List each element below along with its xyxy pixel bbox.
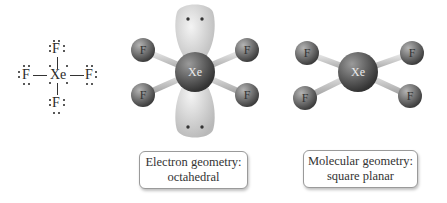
- lewis-atom-left-f: F: [22, 68, 30, 82]
- bond-right: [70, 75, 84, 76]
- electron-geometry-title: Electron geometry:: [140, 155, 247, 170]
- bond-bottom: [57, 83, 58, 95]
- molecular-geometry-title: Molecular geometry:: [304, 154, 417, 169]
- lewis-atom-right-f: F: [85, 68, 93, 82]
- lewis-atom-top-f: F: [52, 42, 60, 56]
- svg-text:Xe: Xe: [351, 65, 365, 79]
- electron-geometry-label: Electron geometry: octahedral: [139, 151, 248, 189]
- svg-text:F: F: [244, 88, 251, 102]
- svg-text:F: F: [140, 43, 147, 57]
- svg-text:F: F: [407, 89, 414, 103]
- electron-geometry-value: octahedral: [140, 170, 247, 185]
- svg-text:F: F: [304, 46, 311, 60]
- bond-left: [33, 75, 47, 76]
- molecular-geometry-label: Molecular geometry: square planar: [303, 150, 418, 188]
- svg-text:Xe: Xe: [188, 65, 202, 79]
- electron-geometry-model: F F F F Xe: [115, 0, 275, 145]
- molecular-geometry-value: square planar: [304, 169, 417, 184]
- svg-text:F: F: [409, 46, 416, 60]
- molecular-geometry-model: F F F F Xe: [290, 40, 447, 140]
- lewis-atom-xe: Xe: [50, 68, 66, 82]
- svg-text:F: F: [140, 88, 147, 102]
- lewis-atom-bottom-f: F: [52, 96, 60, 110]
- lewis-structure: F F Xe F F: [0, 40, 110, 140]
- svg-text:F: F: [302, 91, 309, 105]
- svg-text:F: F: [244, 43, 251, 57]
